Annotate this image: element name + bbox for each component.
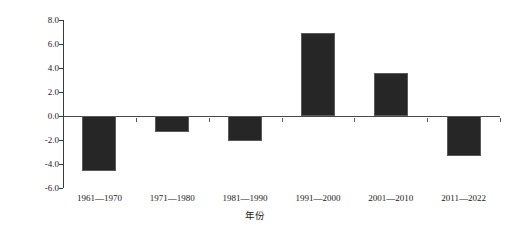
y-axis-tick: [59, 164, 63, 165]
y-axis-tick: [59, 44, 63, 45]
zero-baseline: [63, 116, 500, 117]
x-axis-tick-labels: 1961—19701971—19801981—19901991—20002001…: [63, 191, 500, 205]
x-axis-title: 年份: [0, 210, 509, 223]
bar: [447, 116, 481, 156]
y-axis-tick-label: -6.0: [45, 184, 59, 193]
y-axis-tick-label: 8.0: [48, 16, 59, 25]
x-axis-tick-label: 1961—1970: [77, 191, 122, 205]
y-axis-spine: [63, 20, 64, 188]
bar: [301, 33, 335, 116]
y-axis-tick: [59, 116, 63, 117]
x-axis-tick: [354, 118, 355, 122]
y-axis-tick-label: 2.0: [48, 88, 59, 97]
bar: [374, 73, 408, 116]
y-axis-tick-label: 4.0: [48, 64, 59, 73]
chart-figure: 降水日数距平/d 8.06.04.02.00.0-2.0-4.0-6.0 196…: [0, 0, 509, 236]
x-axis-tick-label: 1971—1980: [150, 191, 195, 205]
y-axis-tick-label: -2.0: [45, 136, 59, 145]
bar: [82, 116, 116, 171]
x-axis-tick-label: 1991—2000: [295, 191, 340, 205]
bar: [228, 116, 262, 141]
y-axis-tick: [59, 20, 63, 21]
x-axis-tick-label: 2001—2010: [368, 191, 413, 205]
x-axis-tick-label: 1981—1990: [223, 191, 268, 205]
y-axis-tick: [59, 188, 63, 189]
x-axis-tick: [282, 118, 283, 122]
x-axis-tick: [209, 118, 210, 122]
y-axis-tick: [59, 140, 63, 141]
y-axis-tick: [59, 68, 63, 69]
x-axis-tick-label: 2011—2022: [441, 191, 486, 205]
x-axis-tick: [500, 118, 501, 122]
y-axis-tick-label: 6.0: [48, 40, 59, 49]
bar: [155, 116, 189, 132]
plot-area: 8.06.04.02.00.0-2.0-4.0-6.0: [63, 20, 500, 188]
y-axis-tick: [59, 92, 63, 93]
x-axis-tick: [136, 118, 137, 122]
y-axis-tick-label: 0.0: [48, 112, 59, 121]
x-axis-tick: [427, 118, 428, 122]
y-axis-tick-label: -4.0: [45, 160, 59, 169]
y-axis-title: 降水日数距平/d: [2, 0, 16, 14]
